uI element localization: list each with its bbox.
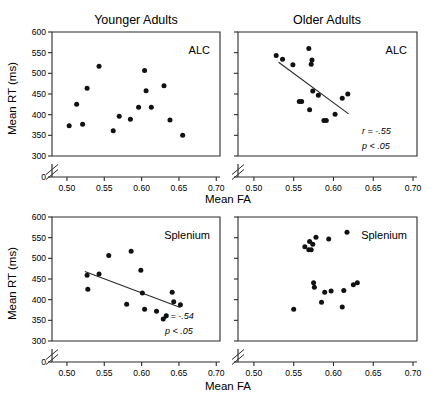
data-point — [80, 122, 85, 127]
x-tick-label: 0.60 — [325, 368, 342, 378]
x-tick-label: 0.55 — [285, 183, 302, 193]
roi-label: Splenium — [361, 229, 407, 241]
data-point — [154, 309, 159, 314]
data-point — [142, 68, 147, 73]
y-tick-label: 500 — [32, 253, 47, 263]
data-point — [106, 253, 111, 258]
stat-r-label: r = -.55 — [362, 126, 392, 136]
data-point — [344, 230, 349, 235]
data-point — [162, 83, 167, 88]
x-axis-title: Mean FA — [205, 380, 251, 392]
x-tick-label: 0.50 — [246, 183, 263, 193]
x-tick-label: 0.60 — [133, 368, 150, 378]
x-tick-label: 0.60 — [133, 183, 150, 193]
x-tick-label: 0.50 — [59, 183, 76, 193]
data-point — [341, 288, 346, 293]
x-axis-title: Mean FA — [205, 193, 251, 205]
data-point — [142, 307, 147, 312]
panel-title: Older Adults — [293, 13, 361, 27]
roi-label: ALC — [386, 44, 407, 56]
data-point — [85, 86, 90, 91]
x-tick-label: 0.55 — [96, 368, 113, 378]
data-point — [129, 249, 134, 254]
data-point — [124, 302, 129, 307]
y-tick-label: 600 — [32, 27, 47, 37]
x-tick-label: 0.65 — [171, 183, 188, 193]
stat-r-label: r = -.54 — [165, 311, 194, 321]
data-point — [167, 118, 172, 123]
data-point — [340, 305, 345, 310]
data-point — [307, 107, 312, 112]
data-point — [170, 290, 175, 295]
data-point — [117, 114, 122, 119]
roi-label: Splenium — [164, 229, 210, 241]
x-tick-label: 0.55 — [285, 368, 302, 378]
data-point — [309, 247, 314, 252]
data-point — [313, 235, 318, 240]
data-point — [324, 118, 329, 123]
panel-top-left: 03003504004505005506000.500.550.600.650.… — [32, 13, 225, 193]
data-point — [333, 112, 338, 117]
y-tick-label: 500 — [32, 68, 47, 78]
x-tick-label: 0.65 — [365, 183, 382, 193]
data-point — [144, 88, 149, 93]
panel-top-right: 0.500.550.600.650.70Older AdultsALCr = -… — [232, 13, 422, 193]
data-point — [97, 272, 102, 277]
stat-p-label: p < .05 — [361, 141, 391, 151]
data-point — [329, 288, 334, 293]
y-tick-label: 0 — [41, 357, 46, 367]
x-tick-label: 0.55 — [96, 183, 113, 193]
panel-bottom-right: 0.500.550.600.650.70Splenium — [232, 217, 422, 378]
data-point — [85, 273, 90, 278]
x-tick-label: 0.65 — [365, 368, 382, 378]
y-tick-label: 600 — [32, 212, 47, 222]
data-point — [310, 242, 315, 247]
data-point — [74, 102, 79, 107]
data-point — [180, 133, 185, 138]
y-tick-label: 300 — [32, 336, 47, 346]
y-tick-label: 400 — [32, 295, 47, 305]
y-axis-title: Mean RT (ms) — [6, 62, 18, 135]
data-point — [326, 236, 331, 241]
data-point — [311, 280, 316, 285]
y-tick-label: 450 — [32, 274, 47, 284]
x-tick-label: 0.65 — [171, 368, 188, 378]
data-point — [312, 285, 317, 290]
x-tick-label: 0.70 — [405, 368, 422, 378]
data-point — [291, 307, 296, 312]
y-tick-label: 550 — [32, 48, 47, 58]
data-point — [136, 105, 141, 110]
data-point — [290, 62, 295, 67]
data-point — [138, 268, 143, 273]
data-point — [171, 299, 176, 304]
data-point — [149, 105, 154, 110]
y-tick-label: 350 — [32, 315, 47, 325]
y-axis-title: Mean RT (ms) — [6, 247, 18, 320]
data-point — [85, 287, 90, 292]
data-point — [67, 123, 72, 128]
data-point — [299, 99, 304, 104]
y-tick-label: 300 — [32, 151, 47, 161]
x-tick-label: 0.70 — [405, 183, 422, 193]
y-tick-label: 350 — [32, 130, 47, 140]
data-point — [316, 93, 321, 98]
data-point — [309, 58, 314, 63]
data-point — [306, 46, 311, 51]
y-tick-label: 400 — [32, 110, 47, 120]
x-tick-label: 0.70 — [208, 368, 225, 378]
data-point — [322, 290, 327, 295]
data-point — [310, 89, 315, 94]
data-point — [111, 128, 116, 133]
figure-container: 03003504004505005506000.500.550.600.650.… — [0, 0, 437, 397]
stat-p-label: p < .05 — [164, 326, 194, 336]
regression-line — [85, 272, 181, 308]
plot-root: 03003504004505005506000.500.550.600.650.… — [6, 13, 422, 392]
data-point — [340, 96, 345, 101]
scatter-matrix-svg: 03003504004505005506000.500.550.600.650.… — [0, 0, 437, 397]
x-tick-label: 0.60 — [325, 183, 342, 193]
data-point — [97, 64, 102, 69]
data-point — [280, 57, 285, 62]
data-point — [178, 302, 183, 307]
panel-title: Younger Adults — [94, 13, 178, 27]
data-point — [140, 291, 145, 296]
